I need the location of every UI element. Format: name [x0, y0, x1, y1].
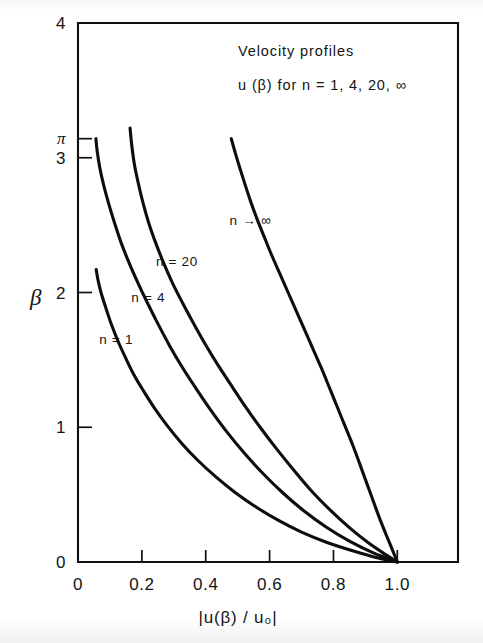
y-tick-label-0: 0: [56, 553, 66, 572]
curve-label-1: n = 1: [99, 332, 133, 347]
x-tick-label-0.4: 0.4: [193, 575, 218, 594]
y-tick-label-1: 1: [56, 418, 66, 437]
y-axis-label: β: [29, 285, 42, 310]
y-tick-label-4: 4: [56, 14, 66, 33]
curve-labels: n = 1n = 4n = 20n → ∞: [99, 213, 271, 347]
curve-label-2: n = 4: [131, 290, 165, 305]
curve-label-3: n = 20: [156, 254, 198, 269]
x-axis-label: |u(β) / u₀|: [199, 608, 278, 627]
curve-series-2: [96, 139, 397, 562]
y-tick-label-2: 2: [56, 284, 66, 303]
y-axis-ticks: [78, 139, 92, 428]
y-tick-label-3: 3: [56, 149, 66, 168]
x-tick-label-0.8: 0.8: [321, 575, 346, 594]
y-tick-label-pi: π: [57, 129, 66, 148]
y-axis-tick-labels: 0123π4: [56, 14, 66, 572]
x-tick-label-0: 0: [73, 575, 83, 594]
curve-label-4: n → ∞: [230, 213, 272, 228]
x-tick-label-0.2: 0.2: [129, 575, 154, 594]
curve-series-4: [231, 139, 397, 562]
x-axis-tick-labels: 00.20.40.60.81.0: [73, 575, 410, 594]
data-curves: [96, 128, 397, 562]
curve-series-1: [96, 270, 397, 562]
figure-container: 00.20.40.60.81.0 0123π4 n = 1n = 4n = 20…: [0, 0, 483, 643]
x-tick-label-1.0: 1.0: [385, 575, 410, 594]
velocity-profile-chart: 00.20.40.60.81.0 0123π4 n = 1n = 4n = 20…: [0, 0, 483, 643]
x-tick-label-0.6: 0.6: [257, 575, 282, 594]
x-axis-ticks: [78, 550, 397, 562]
chart-title: Velocity profiles: [238, 43, 354, 59]
chart-subtitle: u (β) for n = 1, 4, 20, ∞: [238, 77, 407, 93]
